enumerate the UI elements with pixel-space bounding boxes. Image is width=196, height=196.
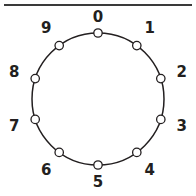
node-marker-0[interactable] xyxy=(94,29,102,37)
node-marker-8[interactable] xyxy=(31,74,39,82)
node-marker-6[interactable] xyxy=(55,148,63,156)
node-label-0: 0 xyxy=(93,10,103,25)
node-label-5: 5 xyxy=(93,175,103,190)
node-marker-2[interactable] xyxy=(157,74,165,82)
node-label-2: 2 xyxy=(176,64,186,79)
cycle-diagram-canvas xyxy=(0,0,196,196)
node-marker-5[interactable] xyxy=(94,161,102,169)
cycle-ring-path xyxy=(32,33,164,165)
node-label-9: 9 xyxy=(41,21,51,36)
node-label-6: 6 xyxy=(41,162,51,177)
node-label-8: 8 xyxy=(9,64,19,79)
node-marker-1[interactable] xyxy=(133,41,141,49)
node-marker-group xyxy=(31,29,165,169)
node-label-4: 4 xyxy=(144,162,154,177)
node-label-1: 1 xyxy=(144,21,154,36)
node-label-7: 7 xyxy=(9,119,19,134)
node-marker-7[interactable] xyxy=(31,115,39,123)
node-marker-3[interactable] xyxy=(157,115,165,123)
node-label-3: 3 xyxy=(176,119,186,134)
cycle-diagram-figure: 0 1 2 3 4 5 6 7 8 9 xyxy=(0,0,196,196)
node-marker-9[interactable] xyxy=(55,41,63,49)
node-marker-4[interactable] xyxy=(133,148,141,156)
